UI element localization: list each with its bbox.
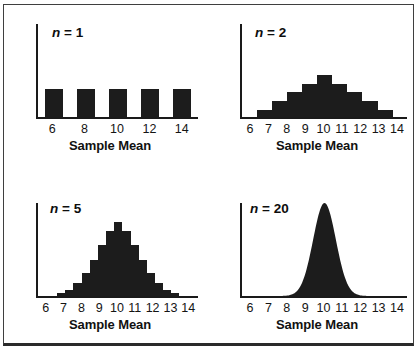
x-tick-label: 10 <box>317 122 331 136</box>
x-tick-label: 9 <box>302 301 309 315</box>
x-tick-label: 6 <box>42 301 49 315</box>
bar <box>317 75 332 117</box>
x-tick-label: 10 <box>110 122 124 136</box>
x-tick-label: 7 <box>265 122 272 136</box>
chart-panel-n5: Frequency n = 5 67891011121314 Sample Me… <box>0 179 209 358</box>
bar <box>45 89 64 117</box>
bar <box>332 84 347 117</box>
x-axis-title: Sample Mean <box>227 317 407 332</box>
bar <box>141 89 160 117</box>
x-tick-label: 14 <box>175 122 189 136</box>
x-axis-ticks-n2: 67891011121314 <box>240 122 407 138</box>
x-tick-label: 10 <box>317 301 331 315</box>
x-tick-label: 13 <box>372 301 386 315</box>
bar <box>272 101 287 117</box>
bar <box>77 89 96 117</box>
x-tick-label: 9 <box>302 122 309 136</box>
x-tick-label: 11 <box>335 122 348 136</box>
x-tick-label: 14 <box>390 301 404 315</box>
density-curve-n20 <box>242 203 407 296</box>
bar <box>347 92 362 117</box>
x-tick-label: 10 <box>110 301 124 315</box>
chart-panel-n2: n = 2 67891011121314 Sample Mean <box>209 0 418 179</box>
x-tick-label: 14 <box>181 301 195 315</box>
x-axis-title: Sample Mean <box>20 317 200 332</box>
x-tick-label: 12 <box>146 301 160 315</box>
x-axis-ticks-n5: 67891011121314 <box>36 301 198 317</box>
bar-series-n2 <box>242 24 407 117</box>
x-tick-label: 11 <box>128 301 141 315</box>
plot-area-n5 <box>36 203 198 298</box>
x-tick-label: 6 <box>247 301 254 315</box>
x-tick-label: 12 <box>353 301 367 315</box>
normal-curve-shape <box>242 203 407 296</box>
bar <box>287 92 302 117</box>
plot-area-n1 <box>36 24 198 119</box>
chart-panel-n20: n = 20 67891011121314 Sample Mean <box>209 179 418 358</box>
sampling-distribution-figure: Frequency n = 1 68101214 Sample Mean n =… <box>0 0 418 358</box>
x-tick-label: 14 <box>390 122 404 136</box>
plot-area-n20 <box>240 203 407 298</box>
curve-fill <box>242 203 407 296</box>
bar <box>171 293 180 296</box>
bar-series-n5 <box>38 203 198 296</box>
x-tick-label: 12 <box>353 122 367 136</box>
bar-series-n1 <box>38 24 198 117</box>
x-tick-label: 6 <box>247 122 254 136</box>
x-tick-label: 12 <box>142 122 156 136</box>
x-tick-label: 13 <box>372 122 386 136</box>
plot-area-n2 <box>240 24 407 119</box>
x-tick-label: 13 <box>164 301 178 315</box>
chart-panel-n1: Frequency n = 1 68101214 Sample Mean <box>0 0 209 179</box>
bar <box>302 84 317 117</box>
x-tick-label: 11 <box>335 301 348 315</box>
x-tick-label: 8 <box>81 122 88 136</box>
x-axis-line <box>36 296 198 298</box>
x-tick-label: 8 <box>283 122 290 136</box>
bar <box>109 89 128 117</box>
x-axis-ticks-n20: 67891011121314 <box>240 301 407 317</box>
x-tick-label: 9 <box>96 301 103 315</box>
x-axis-line <box>240 296 407 298</box>
x-tick-label: 6 <box>49 122 56 136</box>
x-axis-title: Sample Mean <box>227 138 407 153</box>
x-axis-ticks-n1: 68101214 <box>36 122 198 138</box>
bar <box>362 101 377 117</box>
x-tick-label: 8 <box>283 301 290 315</box>
bar <box>173 89 192 117</box>
x-tick-label: 8 <box>78 301 85 315</box>
x-axis-line <box>36 117 198 119</box>
x-tick-label: 7 <box>60 301 67 315</box>
bar <box>257 110 272 117</box>
x-axis-title: Sample Mean <box>20 138 200 153</box>
x-tick-label: 7 <box>265 301 272 315</box>
x-axis-line <box>240 117 407 119</box>
bar <box>377 110 392 117</box>
